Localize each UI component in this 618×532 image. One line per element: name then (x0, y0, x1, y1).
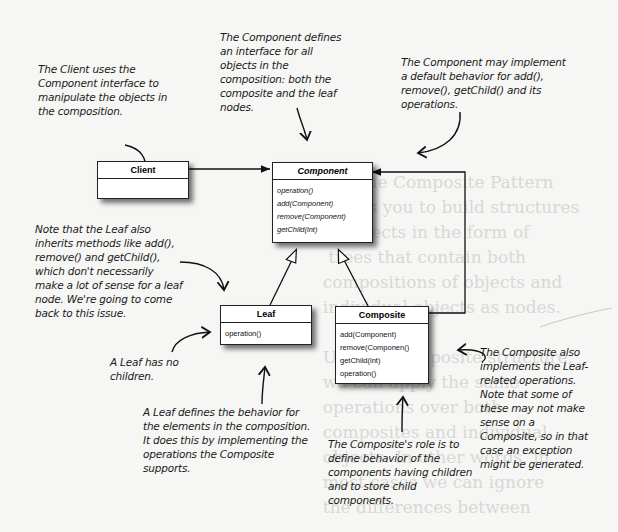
client-class-name: Client (98, 162, 188, 179)
leaf-children-note: A Leaf has no children. (110, 355, 180, 383)
composite-op-add: add(Component) (340, 328, 424, 341)
composite-class-name: Composite (336, 307, 428, 324)
leaf-inherits-note: Note that the Leaf also inherits methods… (35, 222, 185, 320)
default-behavior-arrow (418, 112, 460, 153)
component-op-add: add(Component) (277, 197, 368, 210)
component-op-getchild: getChild(int) (277, 223, 368, 236)
leaf-inherits-arrow (180, 262, 224, 290)
composite-inheritance-line (344, 260, 369, 308)
leaf-op-operation: operation() (225, 327, 307, 340)
margin-stroke (540, 308, 612, 327)
composite-op-getchild: getChild(int) (340, 354, 424, 367)
leaf-children-arrow (172, 332, 210, 352)
composite-op-remove: remove(Componen() (340, 341, 424, 354)
client-class-box: Client (97, 161, 189, 199)
leaf-class-name: Leaf (221, 306, 311, 323)
leaf-class-box: Leaf operation() (220, 305, 312, 345)
composite-leaf-ops-note: The Composite also implements the Leaf-r… (480, 345, 590, 471)
composite-class-box: Composite add(Component) remove(Componen… (335, 306, 429, 384)
component-op-remove: remove(Component) (277, 210, 368, 223)
composite-op-operation: operation() (340, 367, 424, 380)
composite-component-aggregation (372, 172, 465, 313)
leaf-behavior-note: A Leaf defines the behavior for the elem… (143, 405, 313, 475)
composite-role-note: The Composite's role is to define behavi… (328, 437, 483, 507)
leaf-behavior-arrow (262, 367, 265, 404)
component-class-name: Component (273, 163, 372, 180)
component-note: The Component defines an interface for a… (220, 30, 350, 114)
composite-inheritance-arrowhead (334, 247, 349, 263)
client-note: The Client uses the Component interface … (38, 62, 178, 118)
leaf-inheritance-arrowhead (286, 247, 300, 263)
composite-role-arrow (402, 397, 403, 432)
default-behavior-note: The Component may implement a default be… (401, 55, 571, 111)
component-op-operation: operation() (277, 184, 368, 197)
leaf-inheritance-line (270, 260, 292, 305)
component-class-box: Component operation() add(Component) rem… (272, 162, 373, 243)
